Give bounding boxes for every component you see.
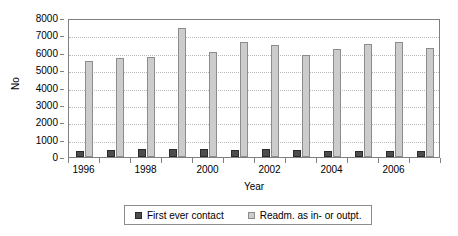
x-tick-label: 1996	[72, 164, 94, 175]
bar-first-ever-contact	[324, 151, 332, 157]
y-tick-label: 1000	[36, 136, 58, 146]
y-axis-tick-labels: 010002000300040005000600070008000	[22, 19, 64, 158]
y-tick-mark	[60, 106, 64, 107]
bar-group	[348, 20, 379, 157]
bar-chart-figure: No 010002000300040005000600070008000 199…	[0, 0, 458, 236]
bar-first-ever-contact	[262, 149, 270, 157]
y-tick-mark	[60, 123, 64, 124]
bar-group	[255, 20, 286, 157]
bar-readmission	[271, 45, 279, 157]
x-tick-mark	[254, 158, 255, 163]
legend-entry: First ever contact	[135, 210, 224, 221]
y-tick-mark	[60, 158, 64, 159]
bar-readmission	[364, 44, 372, 157]
bar-group	[286, 20, 317, 157]
bar-readmission	[209, 52, 217, 157]
bar-readmission	[302, 55, 310, 157]
bar-readmission	[426, 48, 434, 157]
y-tick-label: 2000	[36, 118, 58, 128]
x-tick-mark	[440, 158, 441, 163]
bar-first-ever-contact	[355, 151, 363, 157]
bar-group	[100, 20, 131, 157]
x-tick-label: 2004	[320, 164, 342, 175]
x-tick-label: 2006	[382, 164, 404, 175]
y-tick-mark	[60, 71, 64, 72]
bar-group	[193, 20, 224, 157]
y-tick-label: 5000	[36, 66, 58, 76]
y-tick-mark	[60, 36, 64, 37]
bar-readmission	[147, 57, 155, 157]
x-tick-mark	[161, 158, 162, 163]
bar-group	[410, 20, 441, 157]
bar-first-ever-contact	[200, 149, 208, 157]
bar-first-ever-contact	[107, 150, 115, 157]
x-tick-mark	[347, 158, 348, 163]
y-tick-label: 8000	[36, 14, 58, 24]
chart-legend: First ever contactReadm. as in- or outpt…	[124, 205, 372, 225]
y-tick-mark	[60, 89, 64, 90]
bar-readmission	[85, 61, 93, 157]
x-tick-mark	[316, 158, 317, 163]
bar-group	[379, 20, 410, 157]
bar-series-container	[69, 20, 439, 157]
x-tick-label: 2002	[258, 164, 280, 175]
legend-label: Readm. as in- or outpt.	[260, 210, 362, 221]
y-tick-mark	[60, 54, 64, 55]
legend-entry: Readm. as in- or outpt.	[248, 210, 362, 221]
bar-readmission	[116, 58, 124, 157]
bar-readmission	[395, 42, 403, 157]
x-tick-mark	[378, 158, 379, 163]
y-tick-label: 0	[52, 153, 58, 163]
bar-group	[69, 20, 100, 157]
x-tick-mark	[409, 158, 410, 163]
y-tick-label: 6000	[36, 49, 58, 59]
legend-swatch-icon	[248, 212, 255, 219]
bar-first-ever-contact	[231, 150, 239, 157]
bar-group	[317, 20, 348, 157]
bar-group	[224, 20, 255, 157]
x-axis-title: Year	[68, 181, 440, 192]
bar-readmission	[178, 28, 186, 157]
x-tick-label: 1998	[134, 164, 156, 175]
legend-label: First ever contact	[147, 210, 224, 221]
y-tick-label: 7000	[36, 31, 58, 41]
bar-readmission	[333, 49, 341, 157]
x-tick-mark	[192, 158, 193, 163]
bar-group	[131, 20, 162, 157]
x-tick-mark	[99, 158, 100, 163]
bar-first-ever-contact	[386, 151, 394, 157]
bar-first-ever-contact	[293, 150, 301, 157]
x-tick-mark	[130, 158, 131, 163]
y-tick-mark	[60, 19, 64, 20]
bar-first-ever-contact	[169, 149, 177, 158]
bar-first-ever-contact	[138, 149, 146, 157]
y-axis-title: No	[10, 71, 21, 97]
bar-first-ever-contact	[417, 151, 425, 157]
x-tick-label: 2000	[196, 164, 218, 175]
plot-area	[68, 19, 440, 158]
legend-swatch-icon	[135, 212, 142, 219]
x-tick-mark	[223, 158, 224, 163]
y-tick-label: 3000	[36, 101, 58, 111]
x-tick-mark	[285, 158, 286, 163]
bar-first-ever-contact	[76, 151, 84, 157]
y-tick-label: 4000	[36, 84, 58, 94]
x-axis-tick-labels: 199619982000200220042006	[68, 164, 440, 178]
bar-group	[162, 20, 193, 157]
x-tick-mark	[68, 158, 69, 163]
y-tick-mark	[60, 141, 64, 142]
bar-readmission	[240, 42, 248, 157]
